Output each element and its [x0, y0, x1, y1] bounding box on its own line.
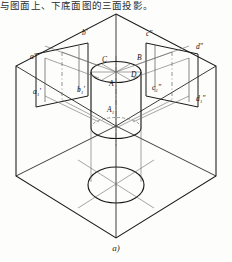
label-d-dprime: d″: [196, 42, 204, 51]
label-c-dprime: c″: [146, 29, 153, 38]
label-a-prime: a': [30, 52, 36, 61]
projection-tie-lines: [45, 46, 189, 128]
label-point-A: A: [108, 79, 114, 88]
label-a1-prime: a₁': [33, 87, 41, 96]
figure-caption: a): [0, 243, 232, 253]
label-b1-prime: b₁': [77, 85, 85, 94]
figure-panel: 与图面上、下底面图的三面投影。: [0, 0, 232, 262]
axonometric-projection-drawing: a' b' c″ d″ a₁' b₁' c₁″ d₁″ C B D A A₁: [0, 0, 232, 262]
label-point-D: D: [130, 70, 137, 79]
label-b-prime: b': [82, 28, 88, 37]
label-d1-dprime: d₁″: [196, 94, 206, 103]
label-point-A1: A₁: [106, 105, 115, 114]
label-point-B: B: [137, 53, 142, 62]
label-c1-dprime: c₁″: [152, 83, 162, 92]
